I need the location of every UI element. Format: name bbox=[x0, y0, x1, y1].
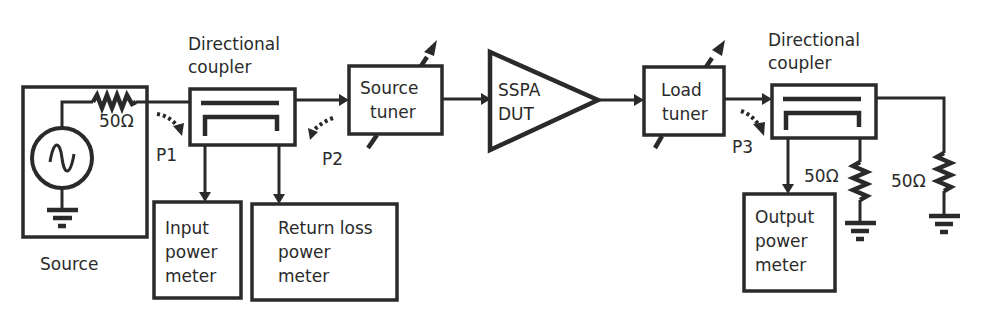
measurement-setup-diagram: 50Ω Source P1 Directional coupler bbox=[0, 0, 982, 320]
coupler-termination-label: 50Ω bbox=[804, 166, 839, 186]
load-tuner-line2: tuner bbox=[662, 104, 708, 124]
output-meter-line2: power bbox=[755, 231, 808, 251]
ground-icon bbox=[845, 223, 876, 239]
input-meter-line1: Input bbox=[165, 218, 209, 238]
coupler-out-label-line2: coupler bbox=[768, 53, 831, 73]
input-meter-line2: power bbox=[165, 242, 218, 262]
port-p1-label: P1 bbox=[156, 145, 177, 165]
sspa-dut-amplifier: SSPA DUT bbox=[490, 52, 598, 150]
load-termination: 50Ω bbox=[876, 98, 960, 232]
load-tuner-line1: Load bbox=[661, 80, 702, 100]
port-p2-label: P2 bbox=[322, 149, 343, 169]
output-meter-line1: Output bbox=[755, 207, 814, 227]
port-p2-indicator: P2 bbox=[308, 118, 343, 169]
directional-coupler-input: Directional coupler bbox=[188, 34, 295, 145]
return-meter-line3: meter bbox=[278, 266, 329, 286]
return-meter-line1: Return loss bbox=[278, 218, 373, 238]
source-tuner: Source tuner bbox=[349, 40, 442, 148]
load-termination-label: 50Ω bbox=[891, 171, 926, 191]
resistor-icon bbox=[937, 153, 951, 191]
ground-icon bbox=[929, 216, 960, 232]
return-meter-line2: power bbox=[278, 242, 331, 262]
coupler-in-label-line1: Directional bbox=[188, 34, 280, 54]
amplifier-icon bbox=[490, 52, 598, 150]
resistor-icon bbox=[853, 162, 867, 200]
return-loss-power-meter: Return loss power meter bbox=[252, 204, 397, 300]
dut-line2: DUT bbox=[498, 104, 535, 124]
input-power-meter: Input power meter bbox=[154, 202, 241, 298]
port-arrow-icon bbox=[753, 122, 765, 136]
coupler-out-label-line1: Directional bbox=[768, 30, 860, 50]
dut-line1: SSPA bbox=[498, 80, 541, 100]
coupler-in-label-line2: coupler bbox=[188, 57, 251, 77]
source-tuner-line1: Source bbox=[360, 78, 418, 98]
source-tuner-line2: tuner bbox=[370, 102, 416, 122]
output-power-meter: Output power meter bbox=[744, 194, 835, 291]
port-p1-indicator: P1 bbox=[156, 114, 184, 165]
output-meter-line3: meter bbox=[755, 255, 806, 275]
input-meter-line3: meter bbox=[165, 266, 216, 286]
load-tuner: Load tuner bbox=[644, 40, 725, 148]
port-p3-indicator: P3 bbox=[732, 111, 765, 157]
directional-coupler-output: Directional coupler bbox=[768, 30, 876, 138]
coupler-to-meters-wires bbox=[199, 145, 285, 204]
source-block: 50Ω Source bbox=[23, 87, 147, 274]
source-label: Source bbox=[40, 254, 98, 274]
port-p3-label: P3 bbox=[732, 137, 753, 157]
port-arrow-icon bbox=[173, 123, 184, 136]
source-resistor-label: 50Ω bbox=[99, 111, 134, 131]
